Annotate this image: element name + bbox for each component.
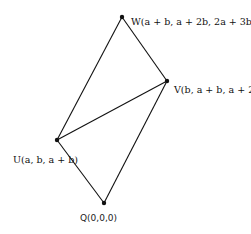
edge-q-v	[104, 81, 167, 203]
label-v: V(b, a + b, a + 2b)	[173, 84, 251, 95]
label-u: U(a, b, a + b)	[13, 154, 78, 165]
vertex-w	[120, 15, 124, 19]
edge-u-v-diagonal	[57, 81, 167, 140]
label-q: Q(0,0,0)	[80, 213, 117, 223]
edge-u-w	[57, 17, 122, 140]
vertex-v	[165, 79, 169, 83]
vertex-q	[102, 201, 106, 205]
label-w: W(a + b, a + 2b, 2a + 3b)	[131, 16, 251, 27]
edge-q-u	[57, 140, 104, 203]
vertex-u	[55, 138, 59, 142]
parallelogram-diagram: W(a + b, a + 2b, 2a + 3b) V(b, a + b, a …	[0, 0, 251, 234]
